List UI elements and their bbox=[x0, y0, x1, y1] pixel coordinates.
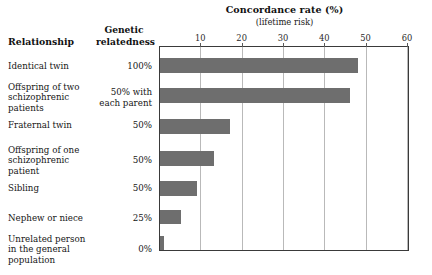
gridline-40 bbox=[324, 47, 325, 250]
tickmark-50 bbox=[366, 43, 367, 47]
row-relatedness-1-line-1: each parent bbox=[92, 98, 152, 108]
row-relatedness-2-line-0: 50% bbox=[92, 120, 152, 130]
row-label-0-line-0: Identical twin bbox=[8, 61, 94, 71]
tickmark-60 bbox=[407, 43, 408, 47]
row-relatedness-3-line-0: 50% bbox=[92, 155, 152, 165]
gridline-30 bbox=[283, 47, 284, 250]
row-label-1-line-0: Offspring of two bbox=[8, 82, 94, 92]
row-label-5: Nephew or niece bbox=[8, 213, 94, 223]
row-label-0: Identical twin bbox=[8, 61, 94, 71]
row-relatedness-6: 0% bbox=[92, 244, 152, 254]
row-label-6-line-0: Unrelated person bbox=[8, 234, 94, 244]
row-relatedness-0-line-0: 100% bbox=[92, 61, 152, 71]
row-label-2: Fraternal twin bbox=[8, 120, 94, 130]
row-relatedness-2: 50% bbox=[92, 120, 152, 130]
tickmark-40 bbox=[324, 43, 325, 47]
row-relatedness-0: 100% bbox=[92, 61, 152, 71]
row-relatedness-6-line-0: 0% bbox=[92, 244, 152, 254]
schizophrenia-concordance-figure: Concordance rate (%) (lifetime risk) Rel… bbox=[0, 0, 432, 275]
row-label-3-line-0: Offspring of one bbox=[8, 145, 94, 155]
x-tick-label-50: 50 bbox=[360, 33, 371, 43]
gridline-50 bbox=[366, 47, 367, 250]
row-relatedness-3: 50% bbox=[92, 155, 152, 165]
tickmark-10 bbox=[200, 43, 201, 47]
row-label-1-line-1: schizophrenic bbox=[8, 92, 94, 102]
row-relatedness-4: 50% bbox=[92, 183, 152, 193]
gridline-10 bbox=[200, 47, 201, 250]
x-tick-label-30: 30 bbox=[278, 33, 289, 43]
row-label-1-line-2: patients bbox=[8, 103, 94, 113]
row-label-4: Sibling bbox=[8, 183, 94, 193]
bar-4 bbox=[160, 181, 197, 196]
row-relatedness-4-line-0: 50% bbox=[92, 183, 152, 193]
row-label-3-line-2: patient bbox=[8, 166, 94, 176]
bar-2 bbox=[160, 119, 230, 134]
x-tick-label-60: 60 bbox=[402, 33, 413, 43]
x-tick-label-40: 40 bbox=[319, 33, 330, 43]
gridline-60 bbox=[407, 47, 408, 250]
row-label-6: Unrelated personin the generalpopulation bbox=[8, 234, 94, 265]
row-label-1: Offspring of twoschizophrenicpatients bbox=[8, 82, 94, 113]
x-tick-label-20: 20 bbox=[236, 33, 247, 43]
plot-area bbox=[159, 46, 409, 251]
row-label-6-line-1: in the general bbox=[8, 244, 94, 254]
row-relatedness-5-line-0: 25% bbox=[92, 213, 152, 223]
row-label-3-line-1: schizophrenic bbox=[8, 155, 94, 165]
row-relatedness-1-line-0: 50% with bbox=[92, 87, 152, 97]
row-label-6-line-2: population bbox=[8, 255, 94, 265]
tickmark-20 bbox=[242, 43, 243, 47]
bar-3 bbox=[160, 151, 214, 166]
gridline-20 bbox=[242, 47, 243, 250]
row-label-5-line-0: Nephew or niece bbox=[8, 213, 94, 223]
bar-5 bbox=[160, 210, 181, 224]
row-relatedness-1: 50% witheach parent bbox=[92, 87, 152, 108]
x-tick-label-10: 10 bbox=[195, 33, 206, 43]
bar-1 bbox=[160, 88, 350, 103]
row-relatedness-5: 25% bbox=[92, 213, 152, 223]
bar-6 bbox=[160, 236, 164, 250]
row-label-2-line-0: Fraternal twin bbox=[8, 120, 94, 130]
row-label-4-line-0: Sibling bbox=[8, 183, 94, 193]
bar-0 bbox=[160, 58, 358, 73]
tickmark-30 bbox=[283, 43, 284, 47]
row-label-3: Offspring of oneschizophrenicpatient bbox=[8, 145, 94, 176]
